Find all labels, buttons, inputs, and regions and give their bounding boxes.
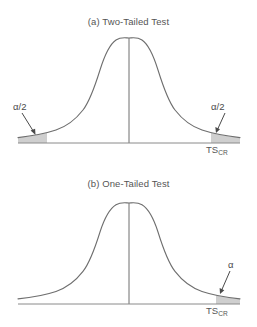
panel-b-ts-base: TS [206, 305, 218, 316]
panel-a-ts-subscript: CR [218, 149, 228, 156]
panel-a-alpha-left-label: α/2 [13, 101, 26, 112]
statistics-figure: (a) Two-Tailed Test α/2 [0, 0, 257, 327]
panel-a-right-arrow [215, 113, 225, 133]
panel-a-left-critical-region [18, 133, 47, 143]
panel-b-right-arrow [220, 271, 230, 294]
panel-one-tailed-test: (b) One-Tailed Test α TSCR [0, 166, 257, 327]
panel-b-alpha-label: α [228, 259, 234, 270]
panel-a-right-critical-region [211, 133, 240, 143]
panel-b-right-critical-region [216, 296, 240, 305]
panel-two-tailed-test: (a) Two-Tailed Test α/2 [0, 0, 257, 166]
panel-b-ts-subscript: CR [218, 310, 228, 317]
panel-a-plot [0, 0, 257, 166]
panel-a-critical-value-label: TSCR [206, 144, 228, 155]
panel-b-critical-value-label: TSCR [206, 305, 228, 316]
panel-a-left-arrow [22, 113, 36, 135]
panel-a-alpha-right-label: α/2 [211, 101, 224, 112]
panel-a-ts-base: TS [206, 144, 218, 155]
panel-b-plot [0, 166, 257, 327]
